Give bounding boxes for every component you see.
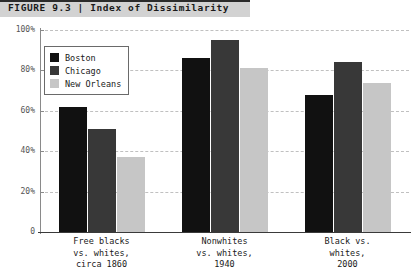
- legend-label: New Orleans: [65, 79, 121, 89]
- legend-item-boston: Boston: [50, 51, 121, 64]
- y-tick-label-100: 100%: [16, 25, 35, 34]
- category-label-line: whites,: [288, 248, 408, 260]
- y-tick-label-0: 0: [30, 227, 35, 236]
- x-axis-line: [38, 232, 411, 233]
- category-label-3: Black vs.whites,2000: [288, 236, 408, 271]
- legend-swatch-icon-chicago: [50, 66, 59, 75]
- bar-new-orleans-group-2: [240, 68, 268, 232]
- bar-chicago-group-3: [334, 62, 362, 232]
- y-tick-label-60: 60%: [21, 106, 35, 115]
- category-label-line: Black vs.: [288, 236, 408, 248]
- bar-boston-group-1: [59, 107, 87, 232]
- category-label-line: vs. whites,: [42, 248, 162, 260]
- bar-boston-group-2: [182, 58, 210, 232]
- category-label-line: Nonwhites: [165, 236, 285, 248]
- bar-chicago-group-2: [211, 40, 239, 232]
- category-label-line: vs. whites,: [165, 248, 285, 260]
- bar-new-orleans-group-1: [117, 157, 145, 232]
- legend-item-chicago: Chicago: [50, 64, 121, 77]
- bar-chicago-group-1: [88, 129, 116, 232]
- bar-boston-group-3: [305, 95, 333, 232]
- figure-container: FIGURE 9.3 | Index of Dissimilarity 020%…: [0, 0, 411, 278]
- legend-item-new-orleans: New Orleans: [50, 77, 121, 90]
- figure-header-title: FIGURE 9.3 | Index of Dissimilarity: [8, 2, 229, 13]
- chart-legend: BostonChicagoNew Orleans: [44, 46, 129, 95]
- legend-swatch-icon-boston: [50, 53, 59, 62]
- category-label-2: Nonwhitesvs. whites,1940: [165, 236, 285, 271]
- category-label-line: circa 1860: [42, 259, 162, 271]
- category-label-1: Free blacksvs. whites,circa 1860: [42, 236, 162, 271]
- category-label-line: 2000: [288, 259, 408, 271]
- y-tick-label-80: 80%: [21, 65, 35, 74]
- y-tick-label-20: 20%: [21, 187, 35, 196]
- legend-label: Boston: [65, 53, 96, 63]
- bar-new-orleans-group-3: [363, 83, 391, 232]
- category-label-line: Free blacks: [42, 236, 162, 248]
- category-label-line: 1940: [165, 259, 285, 271]
- legend-label: Chicago: [65, 66, 101, 76]
- legend-swatch-icon-new-orleans: [50, 79, 59, 88]
- y-tick-label-40: 40%: [21, 146, 35, 155]
